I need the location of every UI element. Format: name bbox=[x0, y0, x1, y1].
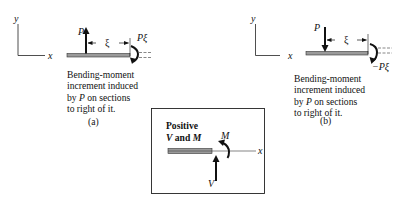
panel-a-sublabel: (a) bbox=[88, 117, 99, 127]
panel-b-caption: Bending-moment increment induced by P on… bbox=[294, 73, 365, 118]
caption-line: Bending-moment bbox=[67, 69, 138, 80]
caption-line: by P on sections bbox=[294, 96, 365, 107]
box-moment-arrow bbox=[218, 140, 229, 159]
box-beam bbox=[168, 149, 212, 154]
panel-b-beam bbox=[306, 52, 368, 56]
panel-a-beam bbox=[67, 54, 130, 58]
panel-b-force-down-arrow bbox=[322, 27, 329, 52]
panel-a-x-axis-label: x bbox=[48, 51, 52, 61]
caption-line: Bending-moment bbox=[294, 73, 365, 84]
panel-b-y-axis-label: y bbox=[251, 14, 255, 24]
caption-line: to right of it. bbox=[67, 103, 138, 114]
panel-b-axes bbox=[256, 24, 281, 56]
panel-a-moment-arrow bbox=[130, 46, 138, 64]
panel-a-force-label: P bbox=[78, 27, 84, 37]
panel-b-force-label: P bbox=[314, 23, 320, 33]
caption-line: increment induced bbox=[294, 84, 365, 95]
panel-b-moment-label: −Pξ bbox=[372, 62, 389, 72]
panel-a-axes bbox=[18, 24, 45, 56]
box-title-line2: V and M bbox=[166, 132, 201, 144]
panel-a-distance-label: ξ bbox=[105, 38, 109, 48]
panel-a-y-axis-label: y bbox=[14, 14, 18, 24]
panel-b-x-axis-label: x bbox=[288, 51, 292, 61]
panel-b-section-cut bbox=[378, 48, 392, 53]
panel-a-moment-label: Pξ bbox=[137, 33, 147, 43]
panel-b-distance-label: ξ bbox=[344, 35, 348, 45]
box-title: Positive V and M bbox=[166, 120, 201, 144]
caption-line: by P on sections bbox=[67, 92, 138, 103]
panel-a-section-cut bbox=[139, 53, 152, 58]
caption-line: increment induced bbox=[67, 80, 138, 91]
box-moment-label: M bbox=[221, 131, 229, 141]
panel-b-sublabel: (b) bbox=[320, 116, 331, 126]
box-x-axis-label: x bbox=[258, 146, 262, 156]
panel-a-caption: Bending-moment increment induced by P on… bbox=[67, 69, 138, 114]
box-shear-label: V bbox=[208, 179, 214, 189]
box-title-line1: Positive bbox=[166, 120, 201, 132]
